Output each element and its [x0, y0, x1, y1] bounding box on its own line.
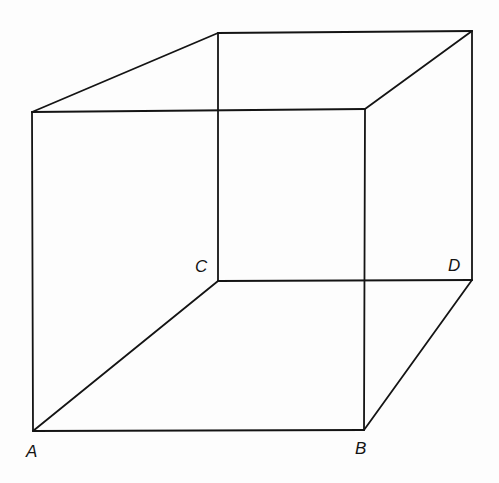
edge-front-left — [32, 112, 33, 431]
vertex-label-d: D — [448, 257, 460, 274]
edge-front-top — [32, 109, 365, 112]
edge-connect-AC — [33, 281, 218, 431]
necker-cube-figure — [0, 0, 499, 483]
edge-back-bottom-CD — [218, 280, 472, 281]
vertex-label-b: B — [355, 440, 366, 457]
edge-back-top — [218, 31, 472, 33]
edge-front-right — [364, 109, 365, 430]
edge-connect-BD — [364, 280, 472, 430]
vertex-label-a: A — [26, 443, 37, 460]
edge-front-bottom-AB — [33, 430, 364, 431]
diagram-canvas: A B C D — [0, 0, 499, 483]
vertex-label-c: C — [195, 258, 207, 275]
edge-connect-top-right — [365, 31, 472, 109]
edge-connect-top-left — [32, 33, 218, 112]
